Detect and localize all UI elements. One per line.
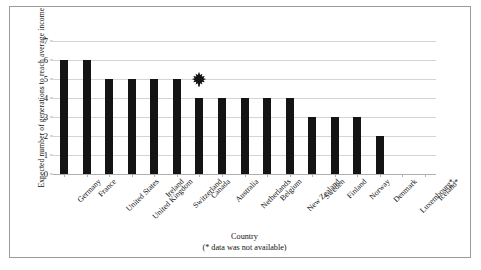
gridline <box>53 60 436 61</box>
y-tick-label: 2 <box>44 131 48 141</box>
x-tick-mark <box>402 174 403 177</box>
x-tick-mark <box>154 174 155 177</box>
x-tick-label: Norway <box>368 177 392 201</box>
y-tick-label: 4 <box>44 93 48 103</box>
y-tick-mark <box>50 98 53 99</box>
x-tick-mark <box>109 174 110 177</box>
x-tick-mark <box>199 174 200 177</box>
bar <box>150 79 158 174</box>
x-tick-mark <box>222 174 223 177</box>
y-tick-mark <box>50 136 53 137</box>
y-tick-label: 0 <box>44 169 48 179</box>
x-tick-mark <box>357 174 358 177</box>
bar <box>60 60 68 174</box>
x-axis-title-note: (* data was not available) <box>53 243 436 254</box>
x-tick-label: Denmark <box>391 177 418 204</box>
x-tick-mark <box>290 174 291 177</box>
y-tick-label: 1 <box>44 150 48 160</box>
y-tick-mark <box>50 155 53 156</box>
bar <box>83 60 91 174</box>
bar <box>263 98 271 174</box>
bar <box>218 98 226 174</box>
bar <box>241 98 249 174</box>
x-tick-label: Australia <box>233 177 260 204</box>
x-tick-mark <box>312 174 313 177</box>
x-tick-mark <box>132 174 133 177</box>
bar <box>376 136 384 174</box>
bar <box>128 79 136 174</box>
bar <box>286 98 294 174</box>
bar <box>353 117 361 174</box>
x-tick-mark <box>425 174 426 177</box>
x-tick-mark <box>87 174 88 177</box>
plot-area: 01234567 <box>53 41 436 174</box>
y-tick-mark <box>50 117 53 118</box>
maple-leaf-icon <box>191 71 208 88</box>
x-tick-label-layer: GermanyFranceUnited StatesUnited Kingdom… <box>53 175 436 237</box>
gridline <box>53 41 436 42</box>
x-tick-mark <box>380 174 381 177</box>
y-tick-label: 6 <box>44 55 48 65</box>
x-tick-label: Finland <box>345 177 368 200</box>
bar <box>331 117 339 174</box>
x-tick-mark <box>335 174 336 177</box>
x-tick-mark <box>245 174 246 177</box>
y-tick-label: 5 <box>44 74 48 84</box>
x-axis-title: Country (* data was not available) <box>53 232 436 253</box>
y-tick-mark <box>50 79 53 80</box>
x-tick-mark <box>267 174 268 177</box>
chart-figure-frame: Expected number of generations to reach … <box>9 6 471 258</box>
bar <box>105 79 113 174</box>
bar <box>308 117 316 174</box>
plot-inner: 01234567 <box>53 41 436 174</box>
x-tick-mark <box>177 174 178 177</box>
bar <box>195 98 203 174</box>
x-tick-mark <box>64 174 65 177</box>
y-tick-mark <box>50 41 53 42</box>
x-tick-label: Sweden <box>322 177 346 201</box>
y-tick-label: 3 <box>44 112 48 122</box>
bar <box>173 79 181 174</box>
x-axis-title-main: Country <box>53 232 436 243</box>
y-tick-label: 7 <box>44 36 48 46</box>
y-tick-mark <box>50 60 53 61</box>
